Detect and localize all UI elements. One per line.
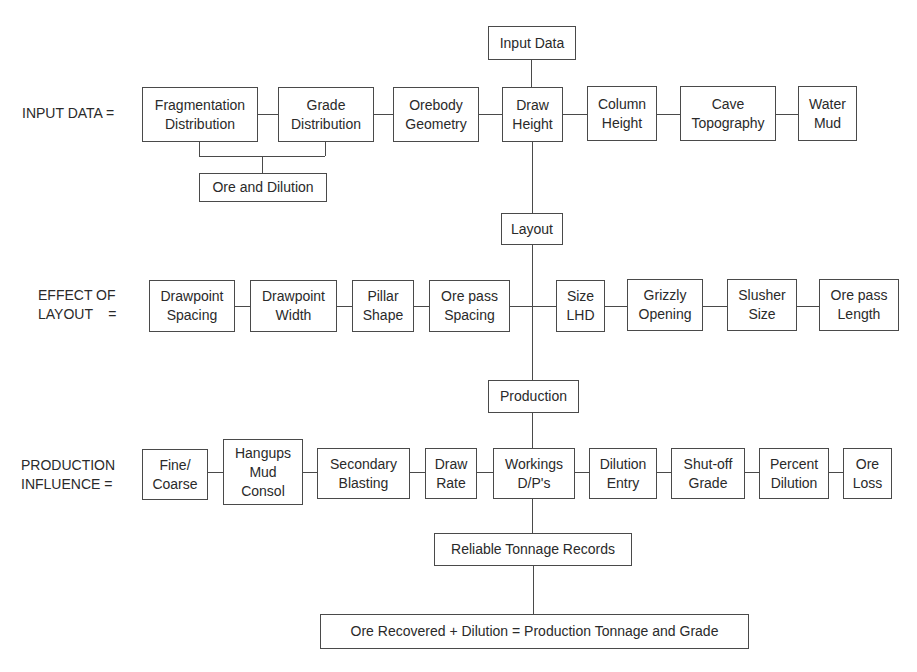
node-ore-loss: Ore Loss (843, 448, 892, 499)
node-shut-off-grade: Shut-off Grade (671, 448, 745, 499)
node-draw-height: Draw Height (502, 87, 563, 142)
node-grade-distribution: Grade Distribution (278, 87, 374, 142)
node-column-height: Column Height (587, 86, 657, 141)
connector-frag-down (199, 141, 200, 156)
node-ore-recovered-result: Ore Recovered + Dilution = Production To… (320, 614, 749, 649)
node-hangups-mud-consol: Hangups Mud Consol (223, 439, 303, 505)
node-draw-rate: Draw Rate (425, 448, 477, 499)
node-reliable-tonnage-records: Reliable Tonnage Records (434, 533, 632, 566)
node-ore-pass-spacing: Ore pass Spacing (429, 280, 510, 332)
row-label-input-data: INPUT DATA = (22, 104, 114, 123)
node-input-data: Input Data (488, 26, 576, 60)
row-label-production-influence: PRODUCTION INFLUENCE = (21, 456, 115, 494)
node-drawpoint-width: Drawpoint Width (250, 280, 337, 332)
node-grizzly-opening: Grizzly Opening (627, 279, 703, 331)
node-water-mud: Water Mud (798, 86, 857, 141)
node-percent-dilution: Percent Dilution (759, 448, 829, 499)
connector-layout-to-production (532, 244, 533, 380)
node-ore-and-dilution: Ore and Dilution (199, 173, 327, 202)
node-cave-topography: Cave Topography (680, 86, 776, 141)
flowchart-canvas: INPUT DATA = EFFECT OF LAYOUT = PRODUCTI… (0, 0, 917, 672)
node-orebody-geometry: Orebody Geometry (393, 87, 479, 142)
connector-tonnage-to-result (533, 565, 534, 614)
node-drawpoint-spacing: Drawpoint Spacing (149, 280, 235, 332)
node-secondary-blasting: Secondary Blasting (317, 448, 410, 499)
connector-draw-height-to-layout (532, 141, 533, 213)
node-production: Production (488, 380, 579, 413)
node-workings-dps: Workings D/P's (493, 448, 575, 499)
node-layout: Layout (501, 213, 563, 245)
node-ore-pass-length: Ore pass Length (819, 279, 899, 331)
connector-input-to-draw-height (531, 59, 532, 87)
connector-production-to-workings (532, 412, 533, 448)
connector-bracket-to-ore-dilution (262, 156, 263, 173)
connector-workings-to-tonnage (532, 498, 533, 533)
row-label-effect-of-layout: EFFECT OF LAYOUT = (38, 286, 116, 324)
node-fragmentation-distribution: Fragmentation Distribution (142, 87, 258, 142)
node-pillar-shape: Pillar Shape (352, 280, 414, 332)
node-dilution-entry: Dilution Entry (589, 448, 657, 499)
connector-grade-down (325, 141, 326, 156)
node-slusher-size: Slusher Size (727, 279, 797, 331)
node-fine-coarse: Fine/ Coarse (142, 449, 208, 500)
node-size-lhd: Size LHD (556, 280, 605, 332)
